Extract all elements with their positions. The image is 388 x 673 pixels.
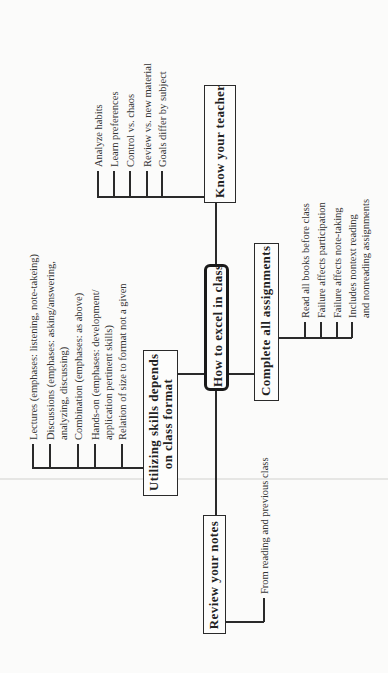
- bracket-complete-tick: [336, 322, 338, 338]
- bracket-review-tick: [263, 598, 265, 622]
- bracket-complete-tick: [304, 322, 306, 338]
- review-item-from-reading: From reading and previous class: [259, 458, 271, 594]
- format-item-handson-line1: Hands-on (emphases: development/: [90, 290, 102, 440]
- assignments-item-nontext-line2: and nonreading assignments: [360, 199, 372, 318]
- connector-center-teacher: [215, 202, 217, 264]
- teacher-item-review-new: Review vs. new material: [142, 63, 154, 167]
- format-item-lectures: Lectures (emphases: listening, note-take…: [28, 254, 40, 440]
- assignments-item-nontext-line1: Includes nontext reading: [347, 214, 359, 318]
- branch-review-notes: Review your notes: [203, 515, 226, 634]
- assignments-item-failure-participation: Failure affects participation: [316, 202, 328, 318]
- branch-utilizing-skills-label-line1: Utilizing skills depends: [147, 357, 161, 491]
- branch-utilizing-skills-label-line2: on class format: [161, 357, 175, 491]
- center-node: How to excel in class: [204, 264, 229, 391]
- assignments-item-failure-notetaking: Failure affects note-taking: [332, 207, 344, 318]
- bracket-complete-tick: [351, 322, 353, 338]
- format-item-discussions-line1: Discussions (emphases: asking/answering,: [45, 261, 57, 440]
- bracket-review-stem: [225, 621, 264, 623]
- bracket-utilizing-tick: [49, 444, 51, 468]
- teacher-item-control-chaos: Control vs. chaos: [125, 94, 137, 167]
- assignments-item-read-books: Read all books before class: [300, 203, 312, 318]
- branch-complete-assignments: Complete all assignments: [254, 243, 279, 401]
- format-item-combination: Combination (emphases: as above): [73, 293, 85, 440]
- branch-complete-assignments-label: Complete all assignments: [259, 250, 273, 396]
- teacher-item-learn-preferences: Learn preferences: [109, 92, 121, 167]
- format-item-discussions-line2: analyzing, discussing): [58, 347, 70, 440]
- bracket-teacher-tick: [129, 171, 131, 197]
- bracket-utilizing-tick: [77, 444, 79, 468]
- center-node-label: How to excel in class: [211, 275, 225, 387]
- bracket-complete-stem: [278, 337, 352, 339]
- branch-know-teacher: Know your teacher: [204, 85, 236, 203]
- bracket-teacher-tick: [113, 171, 115, 197]
- bracket-utilizing-tick: [121, 444, 123, 468]
- page-fold: [0, 478, 388, 480]
- connector-center-complete: [228, 373, 254, 375]
- branch-utilizing-skills: Utilizing skills depends on class format: [143, 350, 178, 496]
- branch-know-teacher-label: Know your teacher: [213, 92, 227, 198]
- format-item-handson-line2: application pertinent skills): [103, 325, 115, 440]
- bracket-utilizing-tick: [94, 444, 96, 468]
- bracket-teacher-tick: [161, 171, 163, 197]
- branch-review-notes-label: Review your notes: [207, 520, 221, 630]
- bracket-teacher-tick: [97, 171, 99, 197]
- teacher-item-goals-subject: Goals differ by subject: [157, 71, 169, 167]
- bracket-utilizing-tick: [32, 444, 34, 468]
- format-item-relation-size: Relation of size to format not a given: [117, 283, 129, 440]
- bracket-teacher-tick: [146, 171, 148, 197]
- bracket-complete-tick: [320, 322, 322, 338]
- connector-center-utilizing: [177, 373, 204, 375]
- connector-center-review: [215, 390, 217, 515]
- teacher-item-analyze-habits: Analyze habits: [93, 104, 105, 167]
